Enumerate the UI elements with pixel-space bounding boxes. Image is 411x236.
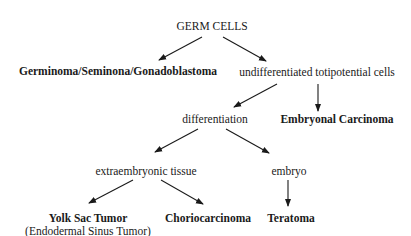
node-teratoma: Teratoma [267,211,314,225]
node-yolk-sac-alt: (Endodermal Sinus Tumor) [25,224,151,236]
arrow-diff-embryo [226,129,269,153]
arrow-extra-yolksac [89,180,133,203]
node-germinoma: Germinoma/Seminona/Gonadoblastoma [19,64,217,78]
arrow-extra-chorio [161,180,203,204]
arrow-root-germinoma [159,37,202,60]
node-differentiation: differentiation [182,112,248,126]
arrow-diff-extraembryonic [155,129,198,152]
node-extraembryonic: extraembryonic tissue [95,164,196,178]
node-yolk-sac: Yolk Sac Tumor [49,211,128,225]
node-undifferentiated: undifferentiated totipotential cells [239,65,395,79]
arrow-root-undifferentiated [223,37,266,61]
node-embryonal-carcinoma: Embryonal Carcinoma [280,112,393,126]
node-choriocarcinoma: Choriocarcinoma [165,211,251,225]
arrow-undiff-differentiation [234,84,277,107]
node-germ-cells: GERM CELLS [176,19,247,33]
node-embryo: embryo [271,164,306,178]
